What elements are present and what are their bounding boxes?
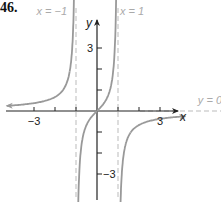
left-branch-tail [7,71,70,105]
y-axis-label: y [85,16,93,30]
y-tick-label-3: 3 [87,42,93,54]
asymptote-label-right: x = 1 [119,5,144,17]
middle-branch-down [78,111,97,202]
x-tick-label-neg3: −3 [28,115,41,127]
asymptote-label-horizontal: y = 0 [197,94,221,106]
x-axis-label: x [179,110,187,124]
function-graph: x = −1x = 1y = 0xy−333−3 [0,0,221,202]
curve-branches [0,0,185,202]
x-tick-label-3: 3 [157,115,163,127]
right-branch-down [120,133,131,203]
asymptote-label-left: x = −1 [35,5,67,17]
left-branch-up [70,0,75,71]
y-tick-label-neg3: −3 [103,168,116,180]
middle-branch-up [97,0,116,111]
